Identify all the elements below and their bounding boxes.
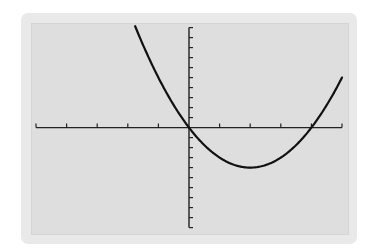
graph-plot: [0, 0, 369, 250]
parabola-curve: [135, 26, 342, 167]
